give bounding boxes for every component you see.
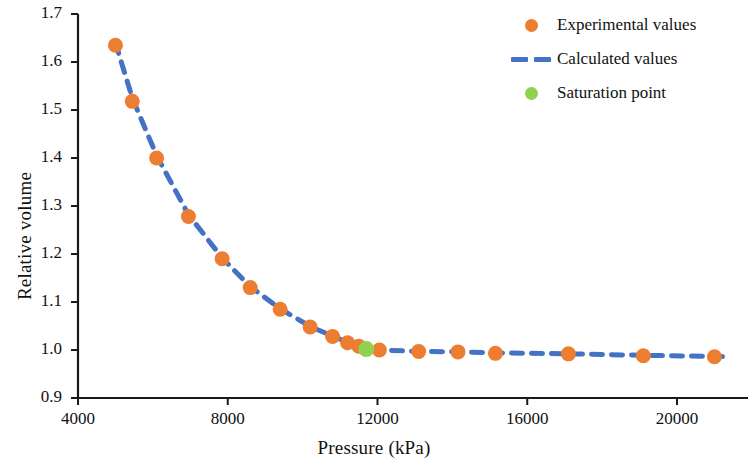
x-tick-label: 20000 — [637, 409, 717, 429]
experimental-point-marker — [561, 346, 576, 361]
y-tick-label: 1.2 — [10, 243, 62, 263]
x-axis-title: Pressure (kPa) — [0, 437, 748, 459]
chart-figure: Relative volume Pressure (kPa) 0.91.01.1… — [0, 0, 748, 468]
x-tick-label: 12000 — [338, 409, 418, 429]
experimental-point-marker — [325, 329, 340, 344]
y-tick-label: 1.5 — [10, 99, 62, 119]
experimental-point-marker — [108, 38, 123, 53]
legend-dashed-line-icon — [505, 57, 557, 62]
experimental-point-marker — [243, 280, 258, 295]
legend-marker — [511, 57, 551, 62]
legend-item: Saturation point — [505, 76, 745, 110]
legend-label: Experimental values — [557, 15, 696, 35]
experimental-point-marker — [411, 344, 426, 359]
y-tick-label: 1.7 — [10, 3, 62, 23]
legend-item: Experimental values — [505, 8, 745, 42]
experimental-point-marker — [125, 94, 140, 109]
legend-marker — [525, 87, 538, 100]
experimental-point-marker — [636, 348, 651, 363]
y-tick-label: 1.6 — [10, 51, 62, 71]
experimental-point-marker — [707, 349, 722, 364]
y-tick-label: 0.9 — [10, 387, 62, 407]
experimental-point-marker — [488, 346, 503, 361]
y-axis-title: Relative volume — [14, 172, 36, 300]
legend-item: Calculated values — [505, 42, 745, 76]
y-tick-label: 1.1 — [10, 291, 62, 311]
experimental-point-marker — [181, 209, 196, 224]
experimental-point-marker — [149, 151, 164, 166]
experimental-point-marker — [303, 319, 318, 334]
y-tick-label: 1.4 — [10, 147, 62, 167]
x-tick-label: 8000 — [188, 409, 268, 429]
legend-marker — [525, 19, 538, 32]
chart-legend: Experimental valuesCalculated valuesSatu… — [505, 8, 745, 110]
experimental-point-marker — [215, 251, 230, 266]
legend-dot-icon — [505, 87, 557, 100]
y-tick-label: 1.3 — [10, 195, 62, 215]
saturation-point-marker — [358, 341, 374, 357]
x-tick-label: 4000 — [38, 409, 118, 429]
experimental-point-marker — [450, 344, 465, 359]
x-tick-label: 16000 — [487, 409, 567, 429]
y-tick-label: 1.0 — [10, 339, 62, 359]
experimental-point-marker — [273, 302, 288, 317]
legend-label: Saturation point — [557, 83, 666, 103]
legend-label: Calculated values — [557, 49, 677, 69]
legend-dot-icon — [505, 19, 557, 32]
